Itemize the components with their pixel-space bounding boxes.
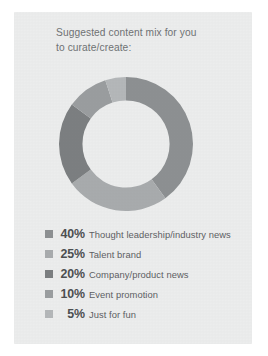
legend-percent: 10%: [53, 287, 89, 301]
donut-slice-group: [59, 77, 193, 211]
legend-item[interactable]: 25% Talent brand: [32, 244, 242, 264]
legend-swatch-icon: [45, 290, 53, 298]
infographic-page: Suggested content mix for you to curate/…: [0, 0, 268, 356]
legend-item[interactable]: 10% Event promotion: [32, 284, 242, 304]
legend-percent: 20%: [53, 267, 89, 281]
legend-item[interactable]: 40% Thought leadership/industry news: [32, 224, 242, 244]
legend-item[interactable]: 5% Just for fun: [32, 304, 242, 324]
legend-percent: 5%: [53, 307, 89, 321]
content-mix-donut-chart: [51, 69, 201, 219]
legend-swatch-icon: [45, 230, 53, 238]
legend-item[interactable]: 20% Company/product news: [32, 264, 242, 284]
chart-legend: 40% Thought leadership/industry news 25%…: [32, 224, 242, 324]
legend-label: Event promotion: [89, 289, 158, 300]
legend-label: Talent brand: [89, 249, 141, 260]
donut-slice[interactable]: [72, 170, 166, 211]
donut-slice[interactable]: [126, 77, 193, 198]
legend-label: Company/product news: [89, 269, 189, 280]
content-mix-card: Suggested content mix for you to curate/…: [14, 12, 252, 344]
legend-swatch-icon: [45, 270, 53, 278]
legend-label: Just for fun: [89, 309, 136, 320]
donut-svg: [51, 69, 201, 219]
legend-label: Thought leadership/industry news: [89, 229, 231, 240]
legend-swatch-icon: [45, 250, 53, 258]
card-title: Suggested content mix for you to curate/…: [56, 26, 241, 55]
legend-swatch-icon: [45, 310, 53, 318]
legend-percent: 40%: [53, 227, 89, 241]
legend-percent: 25%: [53, 247, 89, 261]
donut-slice[interactable]: [59, 105, 91, 184]
